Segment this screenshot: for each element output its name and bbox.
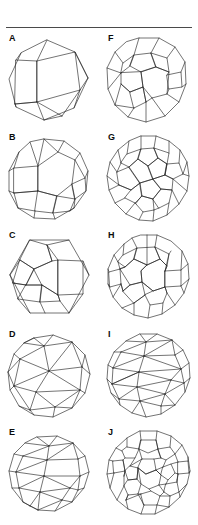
figure-snub-cube <box>0 229 99 327</box>
panel-c: C <box>0 229 99 328</box>
figure-plate: A <box>0 0 198 525</box>
panel-h: H <box>99 229 198 328</box>
panel-j: J <box>99 426 198 525</box>
panel-g: G <box>99 131 198 230</box>
panel-f: F <box>99 32 198 131</box>
figure-truncated-octahedron <box>0 32 99 130</box>
figure-truncated-cuboctahedron <box>99 32 198 130</box>
header-divider-rule <box>6 27 192 28</box>
panel-e: E <box>0 426 99 525</box>
panel-d: D <box>0 328 99 427</box>
figure-icosidodecahedron <box>0 328 99 426</box>
figure-truncated-icosahedron <box>99 131 198 229</box>
panel-i: I <box>99 328 198 427</box>
panel-grid: A <box>0 32 198 525</box>
panel-b: B <box>0 131 99 230</box>
figure-truncated-icosidodecahedron <box>99 426 198 524</box>
figure-snub-dodecahedron-small <box>0 426 99 524</box>
figure-rhombicuboctahedron <box>0 131 99 229</box>
figure-rhombicosidodecahedron <box>99 229 198 327</box>
panel-a: A <box>0 32 99 131</box>
figure-snub-dodecahedron <box>99 328 198 426</box>
